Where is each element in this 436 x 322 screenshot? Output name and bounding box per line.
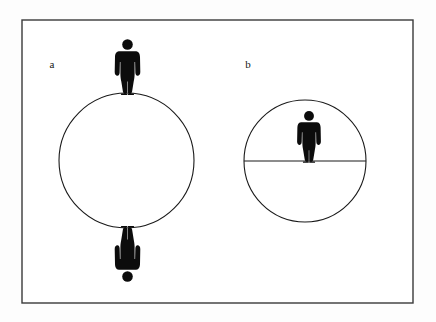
person-head-icon [122,39,133,50]
figure-canvas: a b [0,0,436,322]
person-left-foot-icon [121,94,127,95]
person-left-foot-icon [121,226,127,227]
person-right-foot-icon [128,94,134,95]
person-head-icon [122,271,133,282]
person-right-foot-icon [128,226,134,227]
person-head-icon [304,111,314,121]
person-left-foot-icon [303,162,309,163]
scientific-figure: a b [0,0,436,322]
panel-label-a: a [50,58,55,70]
panel-label-b: b [245,58,251,70]
person-right-foot-icon [309,162,315,163]
circle-a [59,93,194,228]
